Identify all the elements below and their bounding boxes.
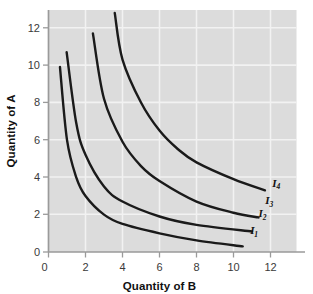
curve-label-I1-subscript: 1 xyxy=(254,230,258,239)
curve-label-I2-subscript: 2 xyxy=(262,213,267,222)
x-tick-labels: 0 2 4 6 8 10 12 xyxy=(41,261,276,273)
ytick-label-12: 12 xyxy=(28,22,40,34)
ytick-label-4: 4 xyxy=(34,171,40,183)
curve-label-I4-subscript: 4 xyxy=(276,182,281,191)
ytick-label-0: 0 xyxy=(34,246,40,258)
xtick-label-10: 10 xyxy=(227,261,239,273)
x-axis-title: Quantity of B xyxy=(123,280,197,292)
curve-label-I3-subscript: 3 xyxy=(269,200,274,209)
indifference-curve-figure: 0 2 4 6 8 10 12 0 2 4 6 8 10 12 Quantity… xyxy=(0,0,313,294)
ytick-label-8: 8 xyxy=(34,96,40,108)
y-axis-title: Quantity of A xyxy=(5,94,17,167)
chart-svg: 0 2 4 6 8 10 12 0 2 4 6 8 10 12 Quantity… xyxy=(0,0,313,294)
xtick-label-2: 2 xyxy=(82,261,88,273)
xtick-label-8: 8 xyxy=(193,261,199,273)
ytick-label-2: 2 xyxy=(34,208,40,220)
xtick-label-4: 4 xyxy=(119,261,125,273)
xtick-label-0: 0 xyxy=(41,261,47,273)
ytick-label-10: 10 xyxy=(28,59,40,71)
xtick-label-6: 6 xyxy=(156,261,162,273)
y-tick-labels: 0 2 4 6 8 10 12 xyxy=(28,22,40,258)
ytick-label-6: 6 xyxy=(34,134,40,146)
xtick-label-12: 12 xyxy=(264,261,276,273)
